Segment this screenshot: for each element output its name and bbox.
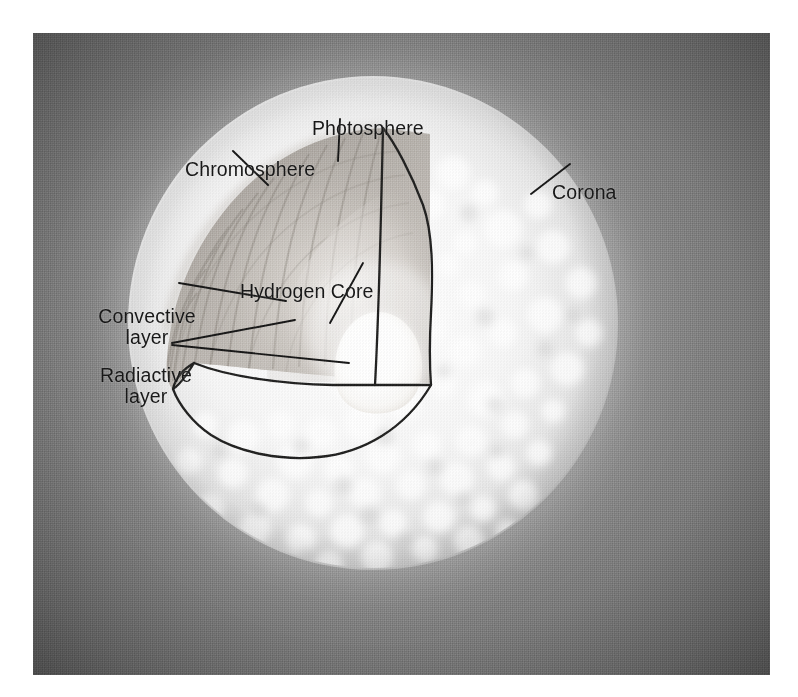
label-radiactive-line2: layer xyxy=(125,385,168,407)
label-radiactive-layer: Radiactivelayer xyxy=(83,365,209,407)
label-convective-line1: Convective xyxy=(98,305,195,327)
label-corona: Corona xyxy=(552,182,617,203)
label-radiactive-line1: Radiactive xyxy=(100,364,192,386)
label-hydrogen-core: Hydrogen Core xyxy=(240,281,374,302)
scanned-photo-plate: Photosphere Chromosphere Corona Hydrogen… xyxy=(33,33,770,675)
figure-page: Photosphere Chromosphere Corona Hydrogen… xyxy=(0,0,798,697)
label-convective-line2: layer xyxy=(126,326,169,348)
label-chromosphere: Chromosphere xyxy=(185,159,315,180)
label-convective-layer: Convectivelayer xyxy=(85,306,209,348)
label-photosphere: Photosphere xyxy=(312,118,424,139)
